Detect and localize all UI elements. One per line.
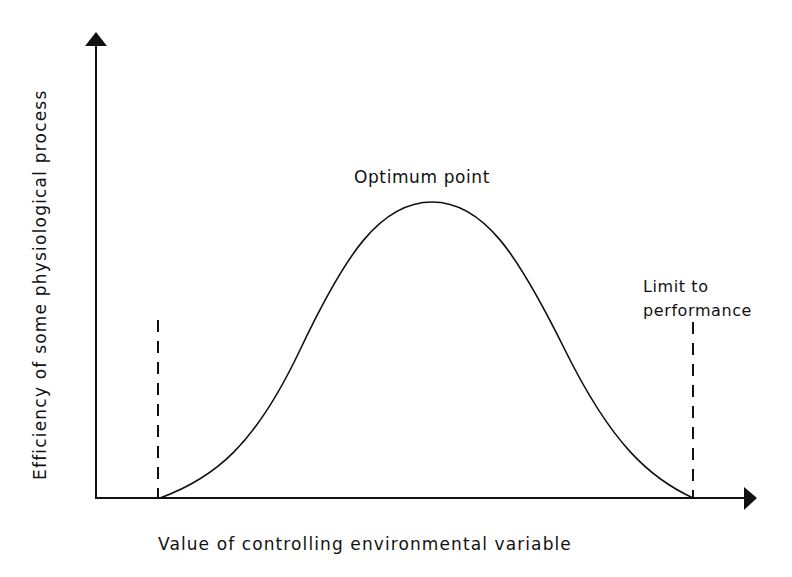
limit-label-line2: performance [643, 301, 752, 320]
y-axis-label: Efficiency of some physiological process [30, 90, 50, 480]
x-axis-arrow-icon [744, 487, 757, 510]
optimum-curve-diagram: Optimum point Limit to performance Effic… [0, 0, 792, 577]
limit-label-line1: Limit to [643, 277, 709, 296]
y-axis-arrow-icon [85, 32, 107, 46]
efficiency-curve [160, 202, 693, 498]
optimum-point-label: Optimum point [354, 167, 490, 187]
x-axis-label: Value of controlling environmental varia… [158, 534, 572, 554]
